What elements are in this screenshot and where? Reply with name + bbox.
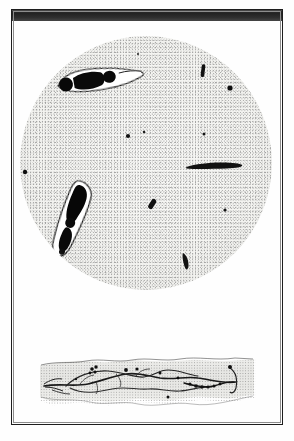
field-edge-vignette <box>20 36 272 290</box>
structure-terminal-arch <box>230 368 237 393</box>
structure-nucleus-l1 <box>90 367 94 371</box>
structure-nucleus-l3 <box>93 370 96 373</box>
structure-nucleus-s5 <box>167 396 170 399</box>
structure-bouton-1 <box>188 382 191 385</box>
plate-canvas <box>0 0 294 441</box>
structure-nucleus-s6 <box>75 378 77 380</box>
structure-nucleus-s3 <box>159 372 162 375</box>
figure-upper-field <box>20 36 276 294</box>
structure-root-branch-a <box>44 379 62 384</box>
structure-terminal-knob <box>228 365 232 369</box>
structure-bouton-2 <box>194 384 198 388</box>
structure-bouton-5 <box>213 385 216 388</box>
structure-nucleus-l2 <box>94 365 97 368</box>
microscope-field-circle <box>20 36 272 290</box>
structure-nucleus-l4 <box>89 372 92 375</box>
structure-bouton-3 <box>200 385 203 388</box>
figure-lower-section <box>40 356 256 412</box>
structure-bouton-6 <box>219 383 222 386</box>
structure-bouton-4 <box>206 385 209 388</box>
structure-nucleus-s1 <box>124 368 128 372</box>
tissue-upper-margin <box>41 358 253 365</box>
tissue-structures-svg <box>40 356 254 408</box>
structure-nucleus-s2 <box>135 367 138 370</box>
structure-nerve-fibre-lower-loop <box>70 387 212 392</box>
tissue-lower-margin <box>41 396 253 405</box>
structure-nucleus-s4 <box>177 377 180 380</box>
